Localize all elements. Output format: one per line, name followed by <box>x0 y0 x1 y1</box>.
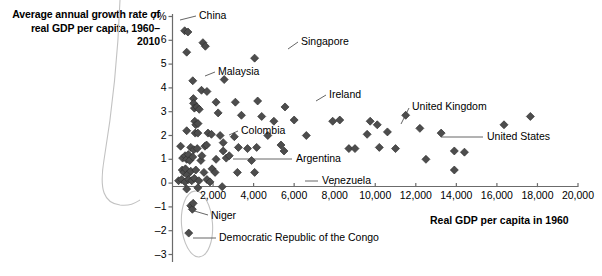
data-point <box>214 109 222 117</box>
data-point <box>375 143 383 151</box>
x-tick-label: 4,000 <box>232 189 276 201</box>
annotation-united-kingdom: United Kingdom <box>412 100 487 112</box>
y-tick-label: –2 <box>131 224 167 236</box>
x-tick-label: 8,000 <box>313 189 357 201</box>
data-point <box>373 121 381 129</box>
data-point <box>383 128 391 136</box>
data-point <box>248 156 256 164</box>
x-tick-label: 18,000 <box>515 189 559 201</box>
annotation-ireland: Ireland <box>329 88 361 100</box>
annotation-china: China <box>199 9 226 21</box>
data-point <box>237 111 245 119</box>
data-point <box>231 98 239 106</box>
data-point <box>366 117 374 125</box>
data-point-democratic-republic-of-the-congo <box>185 229 193 237</box>
data-point <box>219 147 227 155</box>
data-point <box>290 116 298 124</box>
data-point <box>177 142 185 150</box>
annotation-leader-lines <box>180 16 483 238</box>
y-title-leader-curve <box>102 0 140 205</box>
data-points <box>175 27 535 237</box>
y-tick-label: 1 <box>131 152 167 164</box>
x-tick-label: 14,000 <box>434 189 478 201</box>
annotation-united-states: United States <box>487 130 550 142</box>
data-point-united-states <box>437 129 445 137</box>
data-point <box>189 77 197 85</box>
x-tick-label: 12,000 <box>394 189 438 201</box>
x-tick-label: 20,000 <box>556 189 600 201</box>
data-point <box>450 147 458 155</box>
x-tick-label: 16,000 <box>475 189 519 201</box>
annotation-argentina: Argentina <box>296 152 341 164</box>
annotation-singapore: Singapore <box>301 35 349 47</box>
data-point <box>253 143 261 151</box>
data-point <box>216 132 224 140</box>
data-point-united-kingdom <box>402 111 410 119</box>
data-point <box>336 116 344 124</box>
data-point <box>212 155 220 163</box>
leader-singapore <box>288 42 298 49</box>
y-tick-label: 0 <box>131 176 167 188</box>
data-point <box>183 48 191 56</box>
data-point <box>500 121 508 129</box>
leader-china <box>180 16 196 20</box>
data-point <box>234 143 242 151</box>
annotation-colombia: Colombia <box>241 124 285 136</box>
y-tick-label: 3 <box>131 105 167 117</box>
y-tick-label: –3 <box>131 248 167 260</box>
data-point <box>200 168 208 176</box>
annotation-drc: Democratic Republic of the Congo <box>219 231 379 243</box>
data-point <box>422 155 430 163</box>
leader-ireland <box>316 95 326 101</box>
data-point <box>183 127 191 135</box>
leader-malaysia <box>205 72 215 76</box>
y-tick-label: 6 <box>131 33 167 45</box>
data-point-venezuela <box>233 168 241 176</box>
data-point <box>351 145 359 153</box>
data-point <box>526 112 534 120</box>
x-tick-label: 10,000 <box>353 189 397 201</box>
x-tick-label: 2,000 <box>191 189 235 201</box>
x-tick-label: 6,000 <box>272 189 316 201</box>
data-point <box>416 124 424 132</box>
annotation-malaysia: Malaysia <box>218 65 259 77</box>
data-point-colombia <box>219 139 227 147</box>
data-point <box>258 112 266 120</box>
y-tick-label: 7% <box>131 10 167 22</box>
y-tick-label: 2 <box>131 129 167 141</box>
data-point <box>251 168 259 176</box>
data-point <box>254 97 262 105</box>
annotation-niger: Niger <box>211 209 236 221</box>
annotation-venezuela: Venezuela <box>322 174 371 186</box>
data-point <box>363 130 371 138</box>
data-point <box>212 98 220 106</box>
data-point-singapore <box>251 54 259 62</box>
data-point <box>244 145 252 153</box>
data-point <box>450 166 458 174</box>
y-tick-label: –1 <box>131 200 167 212</box>
y-tick-label: 5 <box>131 57 167 69</box>
data-point <box>302 132 310 140</box>
data-point <box>329 117 337 125</box>
y-tick-label: 4 <box>131 81 167 93</box>
data-point <box>460 148 468 156</box>
data-point <box>392 145 400 153</box>
data-point-ireland <box>281 103 289 111</box>
